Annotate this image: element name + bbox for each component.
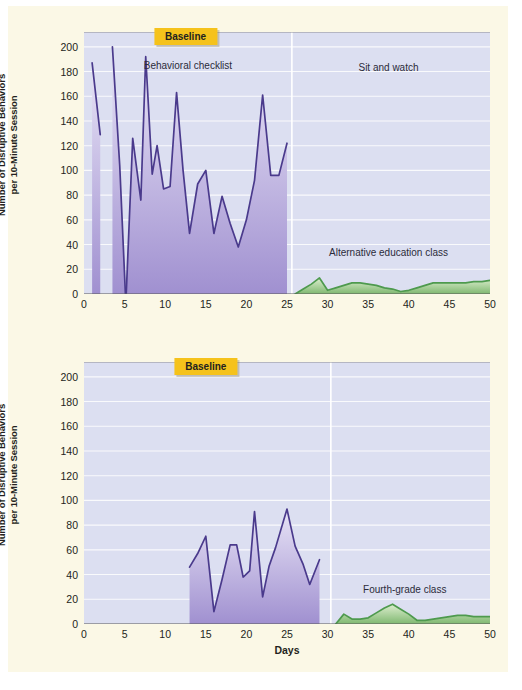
phase-label-behavioral-checklist: Behavioral checklist [144,60,232,71]
y-tick-labels-top: 020406080100120140160180200 [30,32,78,294]
x-tick-label: 5 [122,628,128,640]
series-label-fourth-grade-class: Fourth-grade class [363,584,446,595]
x-tick-label: 0 [81,298,87,310]
y-tick-label: 180 [60,396,78,408]
x-tick-label: 15 [200,298,212,310]
x-tick-label: 0 [81,628,87,640]
y-tick-label: 140 [60,115,78,127]
page-edge-top [0,0,522,6]
x-tick-label: 50 [484,628,496,640]
x-tick-label: 5 [122,298,128,310]
baseline-tag-top: Baseline [154,28,217,45]
x-tick-label: 40 [403,628,415,640]
x-tick-label: 35 [362,628,374,640]
x-tick-label: 50 [484,298,496,310]
x-tick-label: 25 [281,628,293,640]
baseline-tag-bottom: Baseline [174,358,237,375]
page-edge-bottom [0,672,522,690]
x-tick-label: 45 [444,628,456,640]
y-tick-label: 160 [60,420,78,432]
y-tick-label: 120 [60,470,78,482]
x-tick-label: 45 [444,298,456,310]
y-tick-label: 0 [72,618,78,630]
y-tick-label: 80 [66,519,78,531]
x-axis-title: Days [84,644,490,656]
phase-label-sit-and-watch: Sit and watch [358,62,418,73]
y-tick-label: 140 [60,445,78,457]
series-label-alternative-education-class: Alternative education class [329,247,448,258]
y-tick-label: 20 [66,263,78,275]
x-tick-label: 10 [159,298,171,310]
y-tick-label: 100 [60,164,78,176]
y-axis-title-line1: Number of Disruptive Behaviors [0,344,8,606]
y-tick-label: 180 [60,66,78,78]
x-tick-label: 30 [322,298,334,310]
x-tick-label: 20 [241,298,253,310]
y-tick-label: 120 [60,140,78,152]
y-axis-title-line2: per 10-Minute Session [8,14,20,276]
y-tick-label: 200 [60,41,78,53]
y-axis-title-bottom: Number of Disruptive Behaviors per 10-Mi… [0,344,26,606]
chart-panel-top: Number of Disruptive Behaviors per 10-Mi… [0,14,508,344]
plot-area-top: Baseline Behavioral checklist Sit and wa… [84,32,490,294]
x-tick-labels-top: 05101520253035404550 [84,298,490,316]
y-tick-label: 40 [66,569,78,581]
y-tick-label: 40 [66,239,78,251]
x-tick-label: 10 [159,628,171,640]
y-tick-label: 60 [66,544,78,556]
chart-panel-bottom: Number of Disruptive Behaviors per 10-Mi… [0,344,508,674]
figure-root: Number of Disruptive Behaviors per 10-Mi… [0,0,522,690]
y-tick-label: 20 [66,593,78,605]
page-edge-right [508,0,522,690]
y-tick-label: 0 [72,288,78,300]
x-tick-label: 20 [241,628,253,640]
x-tick-label: 40 [403,298,415,310]
y-tick-labels-bottom: 020406080100120140160180200 [30,362,78,624]
plot-area-bottom: Baseline Fourth-grade class [84,362,490,624]
x-tick-label: 15 [200,628,212,640]
y-axis-title-line1: Number of Disruptive Behaviors [0,14,8,276]
y-tick-label: 200 [60,371,78,383]
x-tick-label: 35 [362,298,374,310]
y-tick-label: 100 [60,494,78,506]
x-tick-label: 25 [281,298,293,310]
y-tick-label: 60 [66,214,78,226]
y-axis-title-line2: per 10-Minute Session [8,344,20,606]
y-tick-label: 80 [66,189,78,201]
y-tick-label: 160 [60,90,78,102]
y-axis-title-top: Number of Disruptive Behaviors per 10-Mi… [0,14,26,276]
x-tick-label: 30 [322,628,334,640]
